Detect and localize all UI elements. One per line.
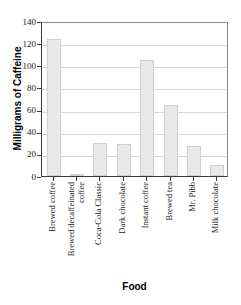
x-axis-tick-mark: [99, 177, 100, 181]
x-axis-category-label-text: Instant coffee: [141, 182, 151, 228]
x-axis-category-label: Coca-Cola Classic: [88, 182, 110, 272]
x-axis-tick-mark: [216, 177, 217, 181]
x-axis-category-label: Brewed coffee: [42, 182, 64, 272]
x-axis-category-label: Brewed tea: [159, 182, 181, 272]
y-axis-tick-mark: [37, 111, 41, 112]
bar: [210, 165, 224, 176]
bar: [117, 144, 131, 176]
bar: [140, 60, 154, 176]
y-axis-tick-mark: [37, 155, 41, 156]
bar: [187, 146, 201, 176]
y-axis-tick-label: 100: [6, 62, 36, 71]
bars-layer: [42, 23, 227, 176]
x-axis-tick-mark: [76, 177, 77, 181]
x-axis-title: Food: [41, 281, 228, 292]
y-axis-tick-label: 40: [6, 128, 36, 137]
x-axis-category-label: Instant coffee: [135, 182, 157, 272]
plot-area: [41, 22, 228, 177]
bar-chart-figure: Milligrams of Caffeine 02040608010012014…: [0, 0, 241, 305]
y-axis-tick-label: 60: [6, 106, 36, 115]
x-axis-tick-mark: [146, 177, 147, 181]
x-axis-category-label: Dark chocolate: [112, 182, 134, 272]
y-axis-tick-label: 140: [6, 18, 36, 27]
x-axis-category-label: Milk chocolate: [205, 182, 227, 272]
x-axis-category-label-text: Dark chocolate: [118, 182, 128, 234]
x-axis-category-label-text: Milk chocolate: [212, 182, 222, 233]
y-axis-tick-label: 80: [6, 84, 36, 93]
bar: [47, 39, 61, 176]
bar: [70, 174, 84, 176]
x-axis-category-label: Mr. Pibb: [182, 182, 204, 272]
y-axis-tick-label: 0: [6, 173, 36, 182]
y-axis-tick-mark: [37, 44, 41, 45]
y-axis-tick-label: 20: [6, 150, 36, 159]
y-axis-tick-mark: [37, 133, 41, 134]
x-axis-tick-mark: [53, 177, 54, 181]
x-axis-tick-mark: [193, 177, 194, 181]
x-axis-category-label-text: Brewed tea: [165, 182, 175, 220]
bar: [93, 143, 107, 176]
x-axis-category-label-text: Mr. Pibb: [188, 182, 198, 212]
bar: [164, 105, 178, 176]
x-axis-tick-mark: [170, 177, 171, 181]
x-axis-category-label-text: Coca-Cola Classic: [95, 182, 105, 245]
x-axis-category-label-text: Brewed decaffeinated coffee: [67, 182, 86, 270]
y-axis-tick-mark: [37, 66, 41, 67]
y-axis-tick-label: 120: [6, 40, 36, 49]
x-axis-category-label: Brewed decaffeinated coffee: [65, 182, 87, 272]
y-axis-tick-mark: [37, 177, 41, 178]
y-axis-tick-mark: [37, 22, 41, 23]
x-axis-tick-mark: [123, 177, 124, 181]
x-axis-category-label-text: Brewed coffee: [48, 182, 58, 232]
y-axis-tick-mark: [37, 88, 41, 89]
x-axis-category-labels: Brewed coffeeBrewed decaffeinated coffee…: [0, 182, 241, 274]
